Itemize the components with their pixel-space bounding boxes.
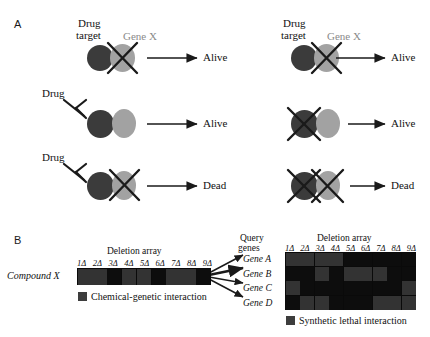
figure-canvas: A Drug target Gene X Alive Drug Alive Dr…: [0, 0, 430, 337]
sl-cell-r4-c9[interactable]: [402, 296, 416, 310]
sl-cell-r4-c5[interactable]: [344, 296, 358, 310]
sl-cell-r1-c4[interactable]: [329, 253, 343, 267]
sl-cell-r3-c3[interactable]: [315, 281, 329, 295]
deletion-tick-left-1: 1Δ: [77, 258, 86, 268]
panel-b-letter: B: [14, 234, 21, 246]
sl-cell-r2-c7[interactable]: [373, 267, 387, 281]
sl-cell-r4-c6[interactable]: [358, 296, 372, 310]
compound-x-cell-3[interactable]: [107, 269, 121, 285]
gene-x-node-r1: [314, 44, 339, 72]
drug-target-label-r1-line1: Drug: [283, 18, 306, 30]
sl-cell-r2-c1[interactable]: [286, 267, 300, 281]
panel-a-letter: A: [14, 18, 21, 30]
sl-cell-r2-c2[interactable]: [300, 267, 314, 281]
drug-target-label-r1-line2: target: [281, 30, 306, 42]
deletion-tick-left-9: 9Δ: [203, 258, 212, 268]
gene-x-label-l1: Gene X: [123, 31, 157, 43]
deletion-tick-left-5: 5Δ: [140, 258, 149, 268]
sl-cell-r3-c6[interactable]: [358, 281, 372, 295]
gene-x-node-r2: [316, 109, 340, 138]
compound-to-query-arrows: [209, 255, 243, 297]
sl-cell-r4-c3[interactable]: [315, 296, 329, 310]
compound-x-cell-4[interactable]: [122, 269, 136, 285]
compound-x-cell-1[interactable]: [78, 269, 92, 285]
gene-x-node-l1: [110, 44, 135, 72]
drug-target-node-r2: [291, 110, 318, 138]
drug-label-l2: Drug: [42, 88, 65, 100]
chemical-genetic-legend: Chemical-genetic interaction: [78, 291, 207, 302]
sl-cell-r2-c9[interactable]: [402, 267, 416, 281]
deletion-tick-left-8: 8Δ: [187, 258, 196, 268]
synthetic-lethal-legend-swatch: [286, 316, 295, 325]
sl-cell-r1-c6[interactable]: [358, 253, 372, 267]
sl-cell-r4-c8[interactable]: [387, 296, 401, 310]
gene-x-node-l3: [112, 171, 136, 200]
compound-x-cell-8[interactable]: [181, 269, 195, 285]
sl-cell-r3-c8[interactable]: [387, 281, 401, 295]
outcome-label-l1: Alive: [203, 52, 227, 64]
compound-x-cell-6[interactable]: [152, 269, 166, 285]
sl-cell-r2-c5[interactable]: [344, 267, 358, 281]
sl-cell-r3-c9[interactable]: [402, 281, 416, 295]
sl-cell-r1-c9[interactable]: [402, 253, 416, 267]
sl-cell-r2-c4[interactable]: [329, 267, 343, 281]
sl-cell-r2-c6[interactable]: [358, 267, 372, 281]
outcome-label-l2: Alive: [203, 118, 227, 130]
sl-cell-r1-c3[interactable]: [315, 253, 329, 267]
query-gene-row-labels: Gene AGene BGene CGene D: [243, 252, 283, 310]
drug-target-label-l1-line1: Drug: [78, 18, 101, 30]
synthetic-lethal-legend: Synthetic lethal interaction: [286, 315, 407, 326]
outcome-label-r3: Dead: [391, 180, 414, 192]
sl-cell-r4-c1[interactable]: [286, 296, 300, 310]
sl-cell-r3-c5[interactable]: [344, 281, 358, 295]
sl-cell-r4-c7[interactable]: [373, 296, 387, 310]
sl-cell-r2-c8[interactable]: [387, 267, 401, 281]
sl-cell-r1-c2[interactable]: [300, 253, 314, 267]
chemical-genetic-legend-label: Chemical-genetic interaction: [91, 291, 207, 302]
drug-target-node-l3: [87, 172, 114, 200]
drug-inhibitor-l3: [64, 164, 86, 182]
sl-cell-r4-c4[interactable]: [329, 296, 343, 310]
deletion-array-ticks-left: 1Δ2Δ3Δ4Δ5Δ6Δ7Δ8Δ9Δ: [77, 258, 212, 268]
query-genes-heatmap[interactable]: [285, 252, 416, 310]
sl-cell-r1-c7[interactable]: [373, 253, 387, 267]
compound-x-cell-7[interactable]: [166, 269, 180, 285]
gene-x-node-l2: [112, 109, 136, 138]
sl-cell-r3-c7[interactable]: [373, 281, 387, 295]
synthetic-lethal-legend-label: Synthetic lethal interaction: [299, 315, 407, 326]
gene-x-label-r1: Gene X: [327, 31, 361, 43]
query-genes-title-line1: Query: [240, 233, 264, 243]
sl-cell-r2-c3[interactable]: [315, 267, 329, 281]
query-gene-label-3: Gene C: [243, 281, 283, 296]
sl-cell-r1-c8[interactable]: [387, 253, 401, 267]
sl-cell-r3-c1[interactable]: [286, 281, 300, 295]
drug-label-l3: Drug: [42, 152, 65, 164]
query-gene-label-2: Gene B: [243, 267, 283, 282]
compound-x-row-label: Compound X: [7, 270, 60, 281]
query-gene-label-1: Gene A: [243, 252, 283, 267]
outcome-label-r1: Alive: [391, 52, 415, 64]
compound-x-cell-5[interactable]: [137, 269, 151, 285]
deletion-array-title-right: Deletion array: [317, 233, 372, 243]
deletion-array-title-left: Deletion array: [107, 246, 162, 256]
deletion-tick-left-7: 7Δ: [171, 258, 180, 268]
gene-x-node-r3: [316, 171, 340, 200]
sl-cell-r1-c1[interactable]: [286, 253, 300, 267]
chemical-genetic-legend-swatch: [78, 292, 87, 301]
deletion-tick-left-3: 3Δ: [108, 258, 117, 268]
outcome-label-l3: Dead: [203, 180, 226, 192]
outcome-label-r2: Alive: [391, 118, 415, 130]
drug-inhibitor-l2: [64, 100, 86, 118]
deletion-tick-left-4: 4Δ: [124, 258, 133, 268]
sl-cell-r3-c2[interactable]: [300, 281, 314, 295]
deletion-tick-left-2: 2Δ: [93, 258, 102, 268]
compound-x-cell-2[interactable]: [92, 269, 106, 285]
sl-cell-r4-c2[interactable]: [300, 296, 314, 310]
deletion-tick-left-6: 6Δ: [156, 258, 165, 268]
query-gene-label-4: Gene D: [243, 296, 283, 311]
compound-x-cell-9[interactable]: [196, 269, 210, 285]
compound-x-heat-strip[interactable]: [77, 268, 211, 285]
sl-cell-r1-c5[interactable]: [344, 253, 358, 267]
drug-target-label-l1-line2: target: [76, 30, 101, 42]
sl-cell-r3-c4[interactable]: [329, 281, 343, 295]
